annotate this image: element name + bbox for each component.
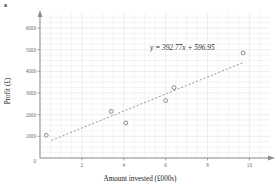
trendline-equation: y = 392.77x + 596.95 <box>150 40 260 54</box>
y-axis-title-text: Profit (£) <box>4 77 12 104</box>
trendline-equation-text: y = 392.77x + 596.95 <box>150 43 215 52</box>
y-tick-labels: 0100020003000400050006000 <box>26 25 40 164</box>
y-axis-title: Profit (£) <box>4 56 16 126</box>
svg-text:2000: 2000 <box>26 112 37 118</box>
svg-text:0: 0 <box>33 158 36 164</box>
svg-text:4000: 4000 <box>26 68 37 74</box>
svg-text:6000: 6000 <box>26 25 37 31</box>
x-tick-labels: 246810 <box>81 158 253 168</box>
figure-part-label: a <box>3 0 17 11</box>
x-axis-title-text: Amount invested (£000s) <box>103 175 177 183</box>
x-axis-title: Amount invested (£000s) <box>0 172 277 185</box>
data-point <box>109 110 113 114</box>
svg-text:8: 8 <box>206 162 209 168</box>
trendline <box>52 62 245 140</box>
svg-text:3000: 3000 <box>26 90 37 96</box>
data-point <box>164 99 168 103</box>
data-point <box>44 133 48 137</box>
data-point <box>172 86 176 90</box>
svg-text:5000: 5000 <box>26 47 37 53</box>
chart-canvas: 0100020003000400050006000 246810 <box>0 0 277 186</box>
svg-text:1000: 1000 <box>26 133 37 139</box>
data-point <box>124 121 128 125</box>
scatter-chart: 0100020003000400050006000 246810 a Profi… <box>0 0 277 186</box>
figure-part-label-text: a <box>4 2 8 8</box>
axes <box>38 10 275 160</box>
grid-lines <box>39 13 270 158</box>
svg-text:6: 6 <box>164 162 167 168</box>
svg-text:2: 2 <box>81 162 84 168</box>
svg-text:10: 10 <box>247 162 253 168</box>
svg-text:4: 4 <box>122 162 125 168</box>
